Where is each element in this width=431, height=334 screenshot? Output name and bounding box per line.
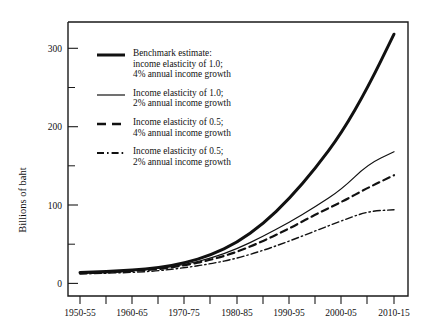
y-axis-minor-ticks	[68, 88, 75, 245]
chart-legend: Benchmark estimate: income elasticity of…	[96, 48, 311, 175]
dashed-line-icon	[96, 117, 126, 131]
y-tick-label-100: 100	[48, 201, 63, 211]
dash-dot-line-icon	[96, 146, 126, 160]
legend-label-ie05-2pct: Income elasticity of 0.5; 2% annual inco…	[133, 146, 231, 167]
x-axis-ticks	[80, 296, 394, 304]
x-tick-label-1960-65: 1960-65	[116, 308, 148, 318]
legend-item-ie10-2pct: Income elasticity of 1.0; 2% annual inco…	[96, 88, 311, 109]
legend-label-ie10-2pct: Income elasticity of 1.0; 2% annual inco…	[133, 88, 231, 109]
x-tick-label-2000-05: 2000-05	[325, 308, 357, 318]
legend-label-ie05-4pct: Income elasticity of 0.5; 4% annual inco…	[133, 117, 231, 138]
thick-solid-line-icon	[96, 48, 126, 62]
y-tick-label-200: 200	[48, 122, 63, 132]
legend-item-benchmark: Benchmark estimate: income elasticity of…	[96, 48, 311, 80]
thin-solid-line-icon	[96, 88, 126, 102]
x-tick-label-1970-75: 1970-75	[168, 308, 200, 318]
y-tick-label-300: 300	[48, 44, 63, 54]
y-tick-label-0: 0	[57, 279, 62, 289]
x-tick-label-1980-85: 1980-85	[221, 308, 253, 318]
y-axis-title: Billions of baht	[17, 167, 28, 232]
legend-item-ie05-2pct: Income elasticity of 0.5; 2% annual inco…	[96, 146, 311, 167]
x-tick-label-1990-95: 1990-95	[273, 308, 305, 318]
x-tick-label-2010-15: 2010-15	[378, 308, 410, 318]
legend-label-benchmark: Benchmark estimate: income elasticity of…	[133, 48, 231, 80]
chart-page: 300 200 100 0 Billions of baht 1950-55 1…	[0, 0, 431, 334]
legend-item-ie05-4pct: Income elasticity of 0.5; 4% annual inco…	[96, 117, 311, 138]
x-tick-label-1950-55: 1950-55	[64, 308, 96, 318]
